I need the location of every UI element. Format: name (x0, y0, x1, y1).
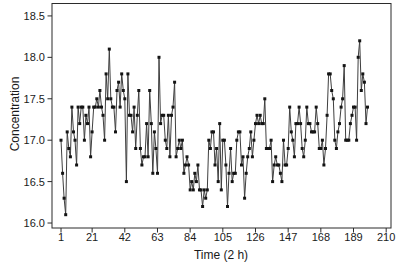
data-point-marker (67, 147, 70, 150)
data-point-marker (74, 139, 77, 142)
data-point-marker (223, 139, 226, 142)
data-point-marker (97, 106, 100, 109)
data-point-marker (203, 188, 206, 191)
data-point-marker (274, 155, 277, 158)
data-point-marker (251, 155, 254, 158)
data-point-marker (206, 188, 209, 191)
data-point-marker (103, 139, 106, 142)
data-point-marker (182, 172, 185, 175)
data-point-marker (81, 106, 84, 109)
data-point-marker (195, 180, 198, 183)
data-point-marker (298, 106, 301, 109)
data-point-marker (189, 188, 192, 191)
data-point-marker (179, 147, 182, 150)
data-point-marker (134, 147, 137, 150)
data-point-marker (355, 139, 358, 142)
data-point-marker (316, 122, 319, 125)
x-axis-ticks: 121426384105126147168189210 (58, 228, 395, 243)
data-point-marker (109, 97, 112, 100)
data-point-marker (61, 172, 64, 175)
data-point-marker (308, 122, 311, 125)
data-point-marker (270, 139, 273, 142)
x-tick-label: 21 (86, 231, 98, 243)
data-point-marker (156, 172, 159, 175)
data-point-marker (102, 114, 105, 117)
data-point-marker (218, 122, 221, 125)
data-point-marker (176, 147, 179, 150)
data-point-marker (98, 89, 101, 92)
data-point-marker (112, 106, 115, 109)
data-point-marker (106, 97, 109, 100)
chart-canvas: 16.016.517.017.518.018.5 121426384105126… (0, 0, 402, 269)
data-point-marker (187, 164, 190, 167)
data-point-marker (271, 180, 274, 183)
x-tick-label: 210 (377, 231, 395, 243)
x-tick-label: 126 (246, 231, 264, 243)
data-point-marker (313, 130, 316, 133)
data-point-marker (209, 147, 212, 150)
data-point-marker (333, 139, 336, 142)
data-point-marker (366, 106, 369, 109)
data-point-marker (178, 139, 181, 142)
data-point-marker (192, 188, 195, 191)
concentration-series (60, 39, 370, 216)
data-point-marker (217, 180, 220, 183)
data-point-marker (326, 114, 329, 117)
data-point-marker (164, 139, 167, 142)
data-point-marker (120, 72, 123, 75)
data-point-marker (91, 130, 94, 133)
data-point-marker (305, 106, 308, 109)
data-point-marker (77, 106, 80, 109)
data-point-marker (116, 89, 119, 92)
data-point-marker (235, 139, 238, 142)
data-point-marker (139, 147, 142, 150)
data-point-marker (330, 89, 333, 92)
data-point-marker (288, 106, 291, 109)
time-series-figure: 16.016.517.017.518.018.5 121426384105126… (0, 0, 402, 269)
data-point-marker (228, 172, 231, 175)
data-point-marker (321, 139, 324, 142)
data-point-marker (131, 130, 134, 133)
data-point-marker (365, 122, 368, 125)
x-axis-title: Time (2 h) (194, 248, 248, 262)
data-point-marker (290, 130, 293, 133)
data-point-marker (240, 164, 243, 167)
data-point-marker (95, 97, 98, 100)
data-point-marker (262, 122, 265, 125)
data-point-marker (302, 155, 305, 158)
data-point-marker (133, 106, 136, 109)
y-tick-label: 17.5 (24, 93, 45, 105)
data-point-marker (117, 81, 120, 84)
x-tick-label: 42 (119, 231, 131, 243)
data-point-marker (168, 155, 171, 158)
data-point-marker (173, 81, 176, 84)
data-point-marker (215, 147, 218, 150)
series-polyline (61, 41, 368, 215)
data-point-marker (319, 147, 322, 150)
data-point-marker (214, 164, 217, 167)
data-point-marker (193, 172, 196, 175)
data-point-marker (340, 106, 343, 109)
data-point-marker (229, 147, 232, 150)
y-tick-label: 16.0 (24, 217, 45, 229)
data-point-marker (212, 130, 215, 133)
data-point-marker (84, 114, 87, 117)
data-point-marker (299, 122, 302, 125)
data-point-marker (259, 114, 262, 117)
x-tick-label: 84 (184, 231, 196, 243)
data-point-marker (153, 130, 156, 133)
data-point-marker (64, 213, 67, 216)
data-point-marker (147, 155, 150, 158)
data-point-marker (105, 72, 108, 75)
data-point-marker (190, 180, 193, 183)
data-point-marker (140, 164, 143, 167)
data-point-marker (204, 197, 207, 200)
data-point-marker (72, 130, 75, 133)
data-point-marker (254, 122, 257, 125)
data-point-marker (338, 122, 341, 125)
data-point-marker (360, 89, 363, 92)
data-point-marker (108, 48, 111, 51)
y-axis-title: Concentration (8, 77, 22, 152)
data-point-marker (341, 97, 344, 100)
y-tick-label: 17.0 (24, 134, 45, 146)
